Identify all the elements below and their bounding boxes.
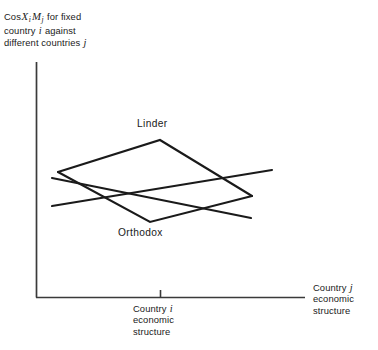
x-center-country-word: Country xyxy=(133,303,167,314)
y-axis-caption: CosXiMj for fixed country i against diff… xyxy=(4,11,87,48)
caption-var-m: M xyxy=(31,10,41,22)
curves-group xyxy=(52,140,272,222)
x-center-line-2: economic xyxy=(133,314,174,325)
x-center-line-1: Country i xyxy=(133,303,174,314)
y-axis-caption-line-3: different countries j xyxy=(4,37,87,48)
caption-against: against xyxy=(45,25,76,36)
caption-for-fixed: for fixed xyxy=(47,11,81,22)
x-axis-center-label: Country i economic structure xyxy=(133,303,174,337)
x-center-line-3: structure xyxy=(133,326,174,337)
y-axis-caption-line-2: country i against xyxy=(4,25,87,36)
falling-reference-line xyxy=(52,178,251,218)
curve-label-linder: Linder xyxy=(137,118,167,129)
caption-sub-j: j xyxy=(42,15,45,24)
caption-var-i: i xyxy=(38,25,42,36)
x-right-var-j: j xyxy=(349,282,353,293)
caption-var-j2: j xyxy=(83,37,87,48)
axes-group xyxy=(36,62,305,298)
caption-var-x: X xyxy=(21,10,29,22)
x-right-line-1: Country j xyxy=(313,282,354,293)
caption-cos-text: Cos xyxy=(4,11,21,22)
caption-different-countries: different countries xyxy=(4,37,80,48)
x-center-var-i: i xyxy=(169,303,173,314)
x-right-country-word: Country xyxy=(313,282,347,293)
curve-label-orthodox: Orthodox xyxy=(118,227,163,238)
x-axis-right-label: Country j economic structure xyxy=(313,282,354,316)
x-right-line-3: structure xyxy=(313,305,354,316)
figure-container: CosXiMj for fixed country i against diff… xyxy=(0,0,378,350)
caption-country-word: country xyxy=(4,25,35,36)
x-right-line-2: economic xyxy=(313,293,354,304)
y-axis-caption-line-1: CosXiMj for fixed xyxy=(4,11,87,25)
